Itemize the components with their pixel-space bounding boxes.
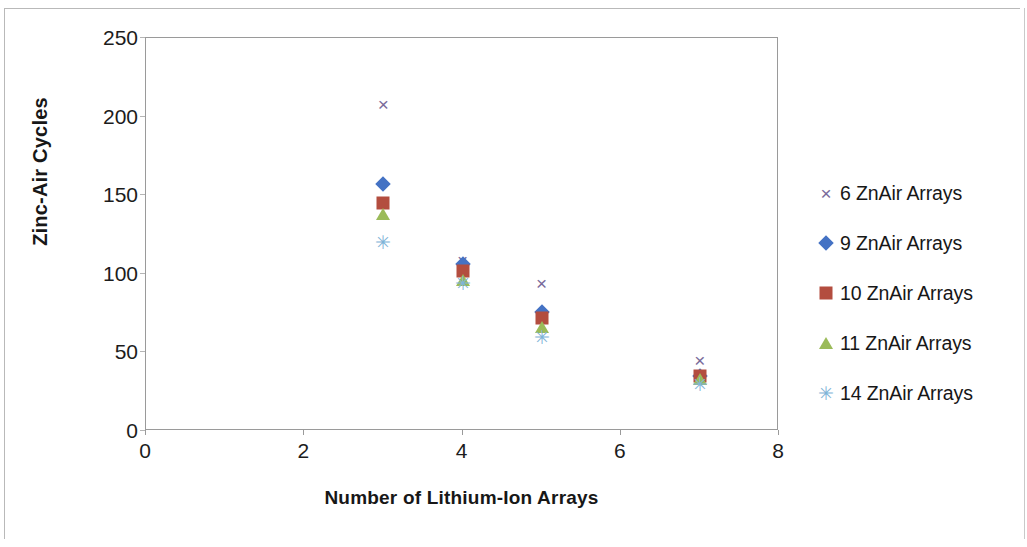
x-tick-label: 6 [590, 440, 650, 461]
data-point [377, 197, 390, 210]
data-point [456, 274, 470, 286]
data-point: × [536, 274, 547, 293]
data-point: ✳ [534, 327, 550, 346]
triangle-marker-icon-glyph [819, 337, 833, 349]
diamond-marker-icon [812, 231, 840, 255]
data-point [693, 369, 706, 382]
data-point [455, 257, 471, 273]
y-tick-mark [140, 194, 145, 195]
data-point [376, 208, 390, 220]
y-tick-label: 100 [76, 262, 138, 283]
x-tick-mark [303, 430, 304, 435]
diamond-marker-icon-glyph [818, 235, 834, 251]
data-point: × [457, 250, 468, 269]
x-tick-mark [462, 430, 463, 435]
y-tick-label: 0 [76, 420, 138, 441]
data-point [535, 321, 549, 333]
x-tick-label: 2 [273, 440, 333, 461]
legend-item-label: 11 ZnAir Arrays [840, 332, 971, 355]
x-axis-title: Number of Lithium-Ion Arrays [145, 487, 778, 509]
data-point: × [694, 351, 705, 370]
y-tick-label: 250 [76, 27, 138, 48]
x-tick-label: 8 [748, 440, 808, 461]
data-point [456, 264, 469, 277]
y-tick-mark [140, 116, 145, 117]
legend-item-label: 10 ZnAir Arrays [840, 282, 973, 305]
legend-item-label: 9 ZnAir Arrays [840, 232, 962, 255]
cross-marker-icon: × [812, 181, 840, 205]
star-marker-icon: ✳ [812, 381, 840, 405]
x-tick-mark [778, 430, 779, 435]
plot-area: ××××✳✳✳✳ [145, 37, 778, 430]
x-tick-mark [620, 430, 621, 435]
y-tick-mark [140, 273, 145, 274]
legend-item[interactable]: 9 ZnAir Arrays [812, 218, 1022, 268]
y-axis-title: Zinc-Air Cycles [29, 67, 52, 277]
data-point: ✳ [692, 374, 708, 393]
chart-legend: ×6 ZnAir Arrays9 ZnAir Arrays10 ZnAir Ar… [812, 168, 1022, 418]
legend-item-label: 6 ZnAir Arrays [840, 182, 962, 205]
data-point [376, 176, 392, 192]
triangle-marker-icon [812, 331, 840, 355]
x-tick-label: 0 [115, 440, 175, 461]
data-point: × [378, 95, 389, 114]
legend-item[interactable]: 11 ZnAir Arrays [812, 318, 1022, 368]
data-point [534, 304, 550, 320]
legend-item[interactable]: 10 ZnAir Arrays [812, 268, 1022, 318]
y-axis-tick-labels: 050100150200250 [68, 0, 138, 547]
chart-page: Zinc-Air Cycles 050100150200250 02468 ××… [0, 0, 1027, 547]
data-point: ✳ [455, 274, 471, 293]
legend-item[interactable]: ✳14 ZnAir Arrays [812, 368, 1022, 418]
y-tick-label: 200 [76, 105, 138, 126]
legend-item-label: 14 ZnAir Arrays [840, 382, 973, 405]
y-tick-mark [140, 351, 145, 352]
y-tick-label: 50 [76, 341, 138, 362]
square-marker-icon-glyph [820, 287, 833, 300]
data-point [535, 311, 548, 324]
square-marker-icon [812, 281, 840, 305]
cross-marker-icon-glyph: × [820, 184, 831, 203]
star-marker-icon-glyph: ✳ [818, 384, 834, 403]
y-tick-label: 150 [76, 184, 138, 205]
x-tick-label: 4 [432, 440, 492, 461]
data-point: ✳ [375, 233, 391, 252]
data-point [693, 373, 707, 385]
data-point [692, 368, 708, 384]
x-tick-mark [145, 430, 146, 435]
y-tick-mark [140, 37, 145, 38]
scatter-chart: Zinc-Air Cycles 050100150200250 02468 ××… [0, 0, 1027, 547]
legend-item[interactable]: ×6 ZnAir Arrays [812, 168, 1022, 218]
